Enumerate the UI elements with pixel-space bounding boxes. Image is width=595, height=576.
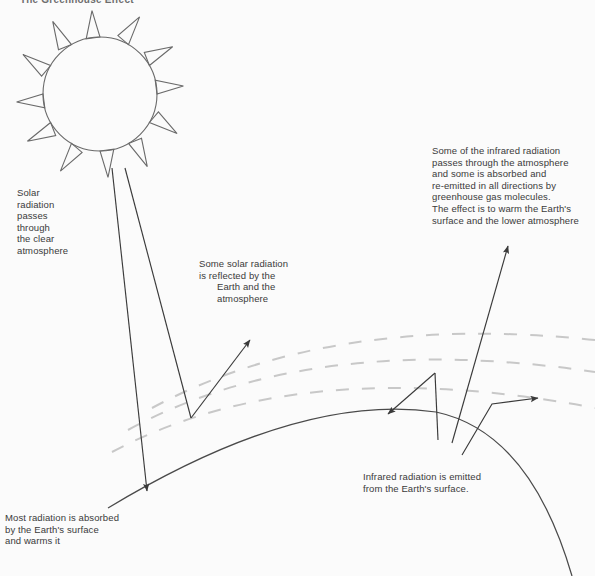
sun-rays: [17, 11, 184, 178]
label-infrared-through-atmosphere: Some of the infrared radiation passes th…: [432, 145, 579, 226]
label-reflected-line-3: Earth and the: [199, 281, 288, 293]
atmosphere-arc-inner: [112, 388, 595, 452]
infrared-reemitted-down: [388, 373, 435, 414]
label-solar-radiation-passes: Solar radiation passes through the clear…: [17, 187, 68, 257]
label-solar-reflected: Some solar radiationis reflected by theE…: [199, 258, 288, 304]
sun-icon: [17, 11, 184, 178]
infrared-arrows: [388, 246, 538, 455]
solar-ray-reflected: [191, 340, 250, 418]
solar-ray-incoming-left: [112, 168, 147, 491]
greenhouse-effect-diagram: The Greenhouse Effect: [0, 0, 595, 576]
atmosphere-arc-middle: [128, 360, 595, 430]
solar-ray-arrows: [112, 168, 250, 491]
infrared-reemitted-riser: [435, 373, 438, 440]
sun-disc: [43, 37, 157, 151]
infrared-escape-long: [452, 246, 508, 443]
label-reflected-line-1: Some solar radiation: [199, 258, 288, 269]
label-most-radiation-absorbed: Most radiation is absorbed by the Earth'…: [5, 512, 119, 547]
label-reflected-line-4: atmosphere: [199, 293, 288, 305]
label-reflected-line-2: is reflected by the: [199, 270, 275, 281]
label-infrared-emitted-from-surface: Infrared radiation is emitted from the E…: [363, 471, 481, 494]
diagram-canvas: [0, 0, 595, 576]
earth-surface-curve: [108, 409, 572, 576]
